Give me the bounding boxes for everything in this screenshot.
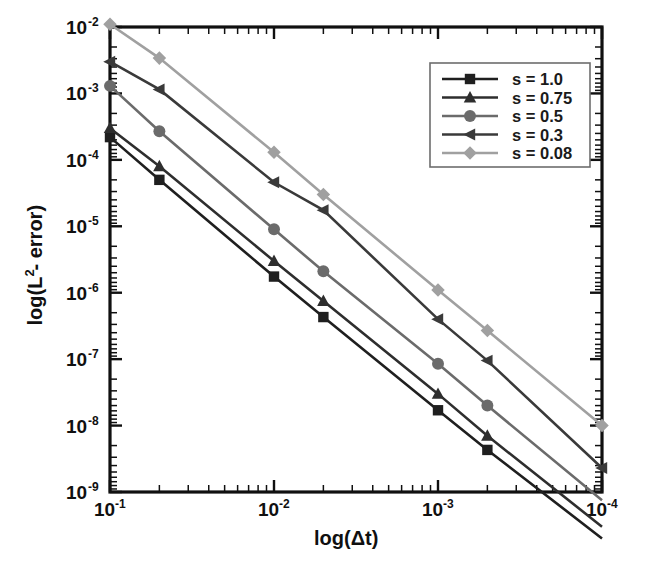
x-tick-label: 10-2 — [258, 497, 290, 520]
y-tick-label: 10-2 — [66, 15, 99, 38]
svg-text:-2: -2 — [279, 497, 290, 511]
series-line-0 — [110, 137, 602, 538]
svg-text:-1: -1 — [115, 497, 126, 511]
svg-text:10: 10 — [422, 499, 443, 520]
x-tick-label: 10-3 — [422, 497, 454, 520]
data-point-marker — [105, 132, 115, 142]
svg-text:-7: -7 — [88, 347, 99, 361]
svg-text:log(Δt): log(Δt) — [314, 527, 378, 549]
legend-label-4: s = 0.08 — [512, 144, 572, 162]
svg-text:-4: -4 — [607, 497, 618, 511]
loglog-convergence-chart: 10-110-210-310-410-210-310-410-510-610-7… — [0, 0, 646, 572]
x-axis-title: log(Δt) — [314, 527, 378, 549]
figure-container: 10-110-210-310-410-210-310-410-510-610-7… — [0, 0, 646, 572]
data-point-marker — [465, 74, 475, 84]
y-tick-label: 10-5 — [66, 214, 99, 237]
y-tick-label: 10-4 — [66, 148, 99, 171]
svg-text:10: 10 — [94, 499, 115, 520]
data-point-marker — [154, 175, 164, 185]
data-point-marker — [268, 223, 280, 235]
svg-text:10: 10 — [66, 349, 87, 370]
x-tick-label: 10-1 — [94, 497, 126, 520]
svg-text:-3: -3 — [88, 81, 99, 95]
data-point-marker — [464, 110, 476, 122]
y-tick-label: 10-3 — [66, 81, 99, 104]
svg-text:10: 10 — [66, 83, 87, 104]
data-point-marker — [317, 265, 329, 277]
svg-text:log(L: log(L — [24, 277, 46, 326]
data-point-marker — [482, 445, 492, 455]
y-tick-label: 10-7 — [66, 347, 99, 370]
data-point-marker — [153, 125, 165, 137]
svg-text:-5: -5 — [88, 214, 99, 228]
legend-label-3: s = 0.3 — [512, 126, 563, 144]
svg-text:-9: -9 — [88, 480, 99, 494]
svg-text:-6: -6 — [88, 281, 99, 295]
data-point-marker — [104, 80, 116, 92]
svg-text:10: 10 — [66, 283, 87, 304]
data-point-marker — [432, 358, 444, 370]
data-point-marker — [433, 405, 443, 415]
series-line-1 — [110, 128, 602, 527]
svg-text:-2: -2 — [88, 15, 99, 29]
svg-text:10: 10 — [66, 150, 87, 171]
plot-layer: 10-110-210-310-410-210-310-410-510-610-7… — [22, 15, 618, 549]
legend-label-2: s = 0.5 — [512, 107, 563, 125]
y-tick-label: 10-8 — [66, 414, 99, 437]
svg-text:10: 10 — [66, 482, 87, 503]
svg-text:10: 10 — [66, 17, 87, 38]
y-axis-title: log(L2 - error) — [22, 205, 46, 326]
svg-text:10: 10 — [258, 499, 279, 520]
svg-text:-4: -4 — [88, 148, 99, 162]
svg-text:10: 10 — [66, 416, 87, 437]
data-point-marker — [104, 122, 116, 133]
legend-label-1: s = 0.75 — [512, 89, 572, 107]
data-point-marker — [481, 400, 493, 412]
svg-text:10: 10 — [66, 216, 87, 237]
y-tick-label: 10-6 — [66, 281, 99, 304]
svg-text:- error): - error) — [24, 205, 46, 271]
data-point-marker — [269, 271, 279, 281]
svg-text:-8: -8 — [88, 414, 99, 428]
data-point-marker — [318, 312, 328, 322]
svg-text:-3: -3 — [443, 497, 454, 511]
legend-label-0: s = 1.0 — [512, 70, 563, 88]
